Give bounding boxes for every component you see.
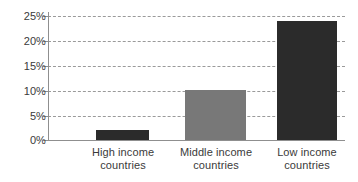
category-label-high-income: High income countries [82, 146, 164, 172]
category-label-high-income-line2: countries [82, 159, 164, 172]
category-label-high-income-line1: High income [82, 146, 164, 159]
ytick-label-25: 25% [2, 11, 46, 22]
ytick-label-5: 5% [2, 111, 46, 122]
ytick-label-15: 15% [2, 61, 46, 72]
bar-low-income [277, 21, 337, 140]
bar-middle-income [185, 90, 246, 140]
axis-baseline [48, 140, 345, 141]
ytick-label-20: 20% [2, 36, 46, 47]
category-label-low-income-line2: countries [266, 159, 348, 172]
category-label-middle-income: Middle income countries [170, 146, 262, 172]
category-label-low-income: Low income countries [266, 146, 348, 172]
category-label-low-income-line1: Low income [266, 146, 348, 159]
category-label-middle-income-line1: Middle income [170, 146, 262, 159]
y-axis-line [48, 12, 49, 141]
category-label-middle-income-line2: countries [170, 159, 262, 172]
ytick-label-10: 10% [2, 86, 46, 97]
gridline-25 [48, 16, 345, 17]
bar-high-income [96, 130, 149, 140]
ytick-label-0: 0% [2, 135, 46, 146]
bar-chart: 25% 20% 15% 10% 5% 0% High income countr… [0, 0, 358, 182]
